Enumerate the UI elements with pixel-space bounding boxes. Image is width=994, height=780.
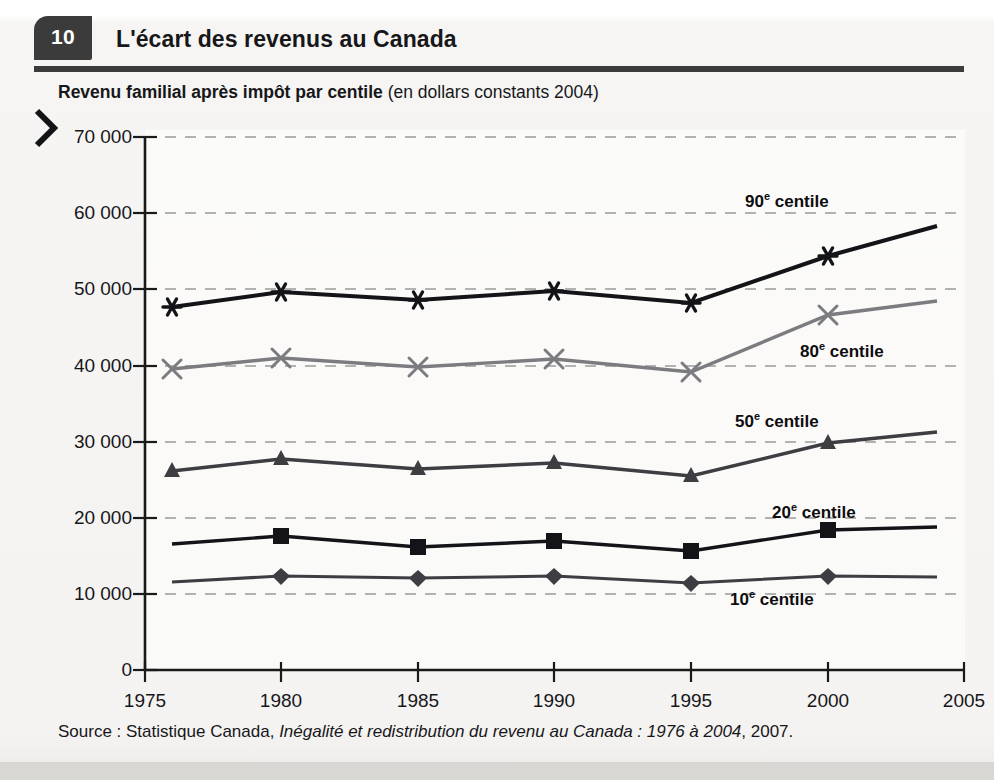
series-annotation-20e: 20e centile xyxy=(772,501,856,523)
x-tick-label-1990: 1990 xyxy=(509,690,599,712)
line-chart xyxy=(0,0,994,780)
x-tick-label-2000: 2000 xyxy=(783,690,873,712)
y-tick-label-0: 0 xyxy=(22,659,132,681)
series-annotation-50e-text: 50e centile xyxy=(735,412,819,431)
series-annotation-20e-text: 20e centile xyxy=(772,503,856,522)
series-annotation-10e: 10e centile xyxy=(730,588,814,610)
y-tick-label-10000: 10 000 xyxy=(22,583,132,605)
y-tick-label-20000: 20 000 xyxy=(22,507,132,529)
y-tick-label-50000: 50 000 xyxy=(22,278,132,300)
x-tick-label-1980: 1980 xyxy=(236,690,326,712)
page-bottom-edge xyxy=(0,762,994,780)
series-annotation-50e: 50e centile xyxy=(735,410,819,432)
series-annotation-90e-text: 90e centile xyxy=(745,192,829,211)
x-tick-label-1975: 1975 xyxy=(100,690,190,712)
y-tick-label-30000: 30 000 xyxy=(22,431,132,453)
y-tick-label-70000: 70 000 xyxy=(22,126,132,148)
series-annotation-90e: 90e centile xyxy=(745,190,829,212)
series-annotation-80e: 80e centile xyxy=(800,340,884,362)
figure-page: 10 L'écart des revenus au Canada Revenu … xyxy=(0,0,994,780)
source-note: Source : Statistique Canada, Inégalité e… xyxy=(58,722,793,742)
x-tick-label-2005: 2005 xyxy=(919,690,994,712)
source-title-italic: Inégalité et redistribution du revenu au… xyxy=(279,722,741,741)
series-annotation-10e-text: 10e centile xyxy=(730,590,814,609)
series-annotation-80e-text: 80e centile xyxy=(800,342,884,361)
source-prefix: Source : Statistique Canada, xyxy=(58,722,279,741)
x-tick-label-1995: 1995 xyxy=(646,690,736,712)
x-tick-label-1985: 1985 xyxy=(373,690,463,712)
source-suffix: , 2007. xyxy=(741,722,793,741)
y-tick-label-40000: 40 000 xyxy=(22,355,132,377)
y-tick-label-60000: 60 000 xyxy=(22,202,132,224)
